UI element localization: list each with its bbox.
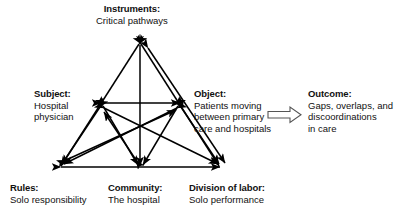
node-label-instruments: Instruments: Critical pathways: [96, 3, 168, 26]
division-line1: Solo performance: [189, 194, 265, 206]
object-line2: between primary: [194, 111, 271, 123]
instruments-line1: Critical pathways: [96, 15, 168, 27]
subject-line2: physician: [34, 111, 74, 123]
rules-line1: Solo responsibility: [10, 194, 87, 206]
node-label-outcome: Outcome: Gaps, overlaps, and discoordina…: [308, 88, 393, 134]
rules-title: Rules:: [10, 182, 87, 194]
node-label-object: Object: Patients moving between primary …: [194, 88, 271, 134]
object-title: Object:: [194, 88, 271, 100]
community-line1: The hospital: [108, 194, 162, 206]
subject-title: Subject:: [34, 88, 74, 100]
division-title: Division of labor:: [189, 182, 265, 194]
subject-line1: Hospital: [34, 100, 74, 112]
outcome-title: Outcome:: [308, 88, 393, 100]
node-label-rules: Rules: Solo responsibility: [10, 182, 87, 205]
object-line1: Patients moving: [194, 100, 271, 112]
node-label-community: Community: The hospital: [108, 182, 162, 205]
node-label-division-of-labor: Division of labor: Solo performance: [189, 182, 265, 205]
object-line3: care and hospitals: [194, 123, 271, 135]
outcome-line3: in care: [308, 123, 393, 135]
community-title: Community:: [108, 182, 162, 194]
outcome-line2: discoordinations: [308, 111, 393, 123]
edge-community-subject-upper: [104, 112, 136, 160]
instruments-title: Instruments:: [96, 3, 168, 15]
edge-object-community: [143, 106, 178, 165]
diagram-canvas: Instruments: Critical pathways Subject: …: [0, 0, 408, 219]
node-label-subject: Subject: Hospital physician: [34, 88, 74, 123]
outcome-block-arrow: [268, 107, 301, 123]
outcome-line1: Gaps, overlaps, and: [308, 100, 393, 112]
